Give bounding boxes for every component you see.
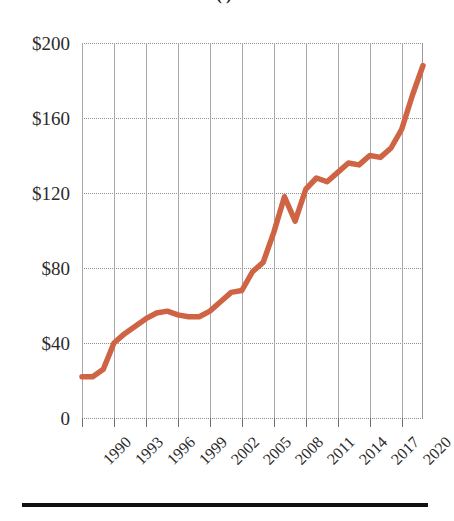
gridline-vertical	[370, 43, 371, 418]
x-tick-label: 2005	[260, 434, 294, 468]
gridline-vertical	[402, 43, 403, 418]
x-tick-label: 2011	[324, 434, 358, 468]
x-tick-mark	[114, 418, 115, 427]
x-tick-label: 1999	[196, 434, 230, 468]
gridline-vertical	[146, 43, 147, 418]
y-tick-label: $120	[0, 184, 70, 203]
gridline-horizontal	[82, 343, 423, 344]
gridline-vertical	[242, 43, 243, 418]
x-tick-mark	[242, 418, 243, 427]
y-axis-tick-labels: 0$40$80$120$160$200	[0, 0, 72, 521]
y-tick-label: $80	[0, 259, 70, 278]
x-tick-mark	[338, 418, 339, 427]
gridline-vertical	[114, 43, 115, 418]
x-tick-label: 2017	[388, 434, 422, 468]
x-tick-mark	[402, 418, 403, 427]
x-tick-label: 2020	[420, 434, 454, 468]
x-tick-mark	[178, 418, 179, 427]
x-tick-label: 2008	[292, 434, 326, 468]
x-tick-label: 1993	[132, 434, 166, 468]
x-tick-label: 2002	[228, 434, 262, 468]
x-tick-mark	[274, 418, 275, 427]
y-tick-label: $160	[0, 109, 70, 128]
gridline-vertical	[338, 43, 339, 418]
y-tick-label: $40	[0, 334, 70, 353]
y-tick-label: 0	[0, 409, 70, 428]
gridline-vertical	[178, 43, 179, 418]
x-tick-mark	[210, 418, 211, 427]
plot-right-border	[422, 43, 423, 418]
gridline-vertical	[306, 43, 307, 418]
gridline-horizontal	[82, 418, 423, 419]
x-tick-mark	[370, 418, 371, 427]
x-tick-label: 1990	[100, 434, 134, 468]
x-tick-mark	[146, 418, 147, 427]
plot-area	[82, 43, 423, 418]
gridline-horizontal	[82, 193, 423, 194]
gridline-horizontal	[82, 268, 423, 269]
x-tick-mark	[306, 418, 307, 427]
gridline-horizontal	[82, 43, 423, 44]
gridline-horizontal	[82, 118, 423, 119]
x-tick-mark	[82, 418, 83, 427]
x-tick-label: 2014	[356, 434, 390, 468]
y-tick-label: $200	[0, 34, 70, 53]
gridline-vertical	[274, 43, 275, 418]
bottom-divider-rule	[22, 503, 428, 507]
x-tick-label: 1996	[164, 434, 198, 468]
gridline-vertical	[210, 43, 211, 418]
gridline-vertical	[82, 43, 83, 418]
